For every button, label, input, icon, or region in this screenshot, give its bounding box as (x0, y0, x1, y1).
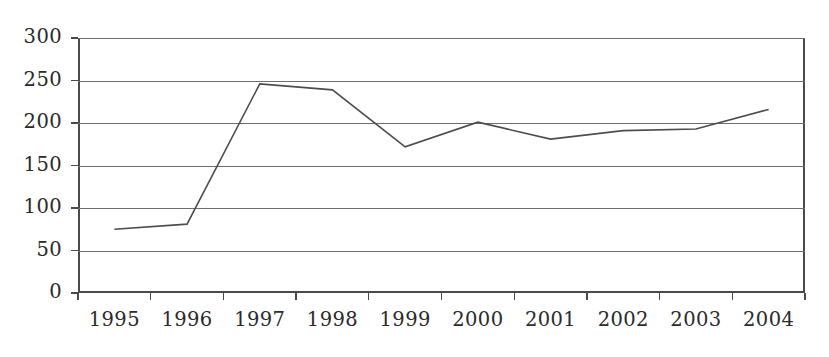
x-axis-tick (77, 293, 78, 300)
y-axis-tick (71, 165, 78, 166)
x-axis-tick (586, 293, 587, 300)
x-axis-tick-label: 1996 (161, 308, 212, 331)
x-axis-labels: 1995199619971998199920002001200220032004 (0, 308, 829, 340)
y-axis-labels: 050100150200250300 (0, 38, 62, 293)
y-axis-tick-label: 50 (36, 238, 62, 261)
x-axis-tick (150, 293, 151, 300)
y-axis-tick-label: 300 (24, 25, 62, 48)
x-axis-tick-label: 1997 (234, 308, 285, 331)
x-axis-tick (659, 293, 660, 300)
x-axis-tick-label: 2003 (670, 308, 721, 331)
x-axis-tick-label: 1999 (380, 308, 431, 331)
x-axis-tick-label: 2000 (452, 308, 503, 331)
x-axis-tick-label: 1995 (89, 308, 140, 331)
x-axis-tick (223, 293, 224, 300)
x-axis-tick (441, 293, 442, 300)
x-axis-tick (804, 293, 805, 300)
y-axis-tick (71, 122, 78, 123)
chart-figure: 050100150200250300 199519961997199819992… (0, 0, 829, 357)
y-axis-tick-label: 200 (24, 110, 62, 133)
y-axis-tick-label: 100 (24, 195, 62, 218)
x-axis-tick-label: 1998 (307, 308, 358, 331)
x-axis-tick (295, 293, 296, 300)
x-axis-tick (514, 293, 515, 300)
x-axis-tick-label: 2002 (598, 308, 649, 331)
y-axis-tick-label: 0 (49, 280, 62, 303)
x-axis-tick-label: 2004 (743, 308, 794, 331)
y-axis-tick (71, 250, 78, 251)
x-axis-tick (368, 293, 369, 300)
x-axis-tick-label: 2001 (525, 308, 576, 331)
y-axis-tick (71, 80, 78, 81)
y-axis-tick-label: 150 (24, 153, 62, 176)
x-axis-tick (732, 293, 733, 300)
series-polyline (114, 84, 768, 229)
data-series-line (78, 38, 805, 293)
y-axis-tick (71, 37, 78, 38)
y-axis-tick-label: 250 (24, 68, 62, 91)
plot-area (78, 38, 805, 293)
y-axis-tick (71, 207, 78, 208)
